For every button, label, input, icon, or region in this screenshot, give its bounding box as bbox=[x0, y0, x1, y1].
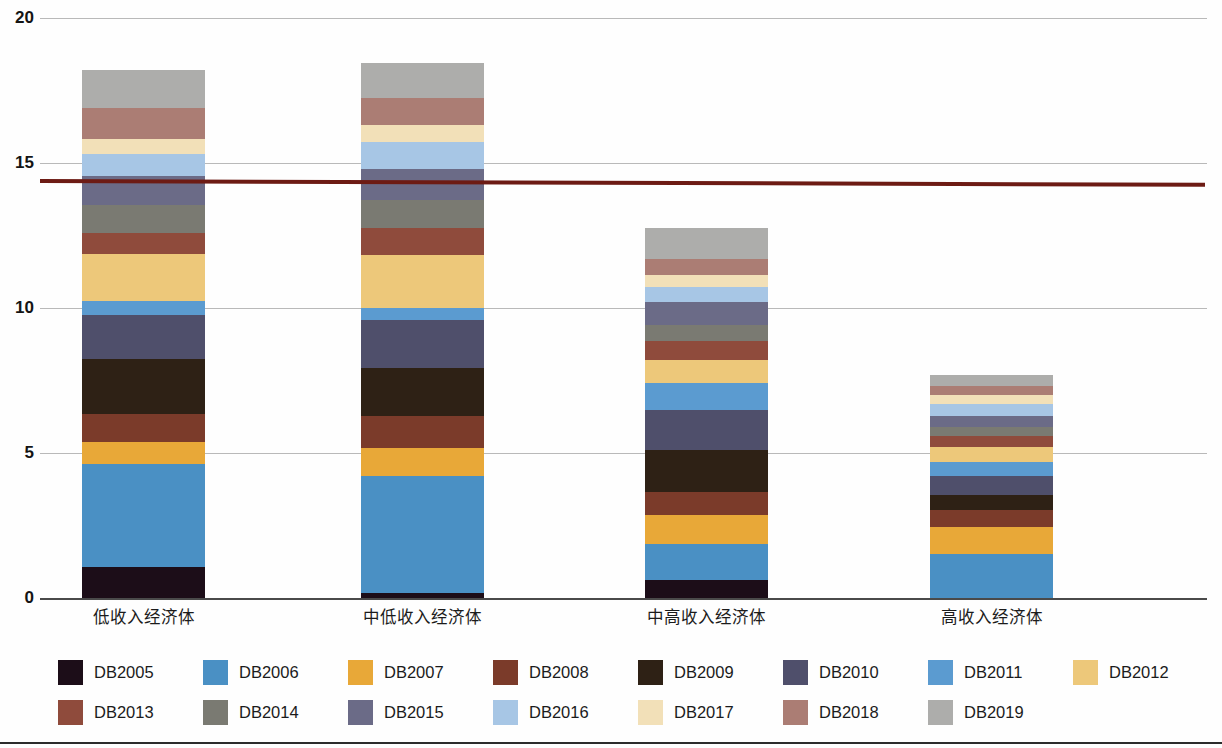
legend-item-db2011[interactable]: DB2011 bbox=[928, 660, 1073, 685]
bar-segment-db2011[interactable] bbox=[361, 308, 484, 320]
legend-row-2: DB2013DB2014DB2015DB2016DB2017DB2018DB20… bbox=[58, 692, 1218, 732]
bar-segment-db2016[interactable] bbox=[930, 404, 1053, 416]
bar-segment-db2013[interactable] bbox=[361, 228, 484, 255]
bar-segment-db2016[interactable] bbox=[361, 142, 484, 169]
bar-segment-db2019[interactable] bbox=[82, 70, 205, 108]
bar-segment-db2009[interactable] bbox=[361, 368, 484, 416]
legend-label: DB2012 bbox=[1109, 663, 1169, 682]
legend-item-db2017[interactable]: DB2017 bbox=[638, 700, 783, 725]
bar-segment-db2006[interactable] bbox=[930, 554, 1053, 598]
bar-segment-db2014[interactable] bbox=[361, 200, 484, 228]
legend-item-db2012[interactable]: DB2012 bbox=[1073, 660, 1218, 685]
bar-segment-db2017[interactable] bbox=[645, 275, 768, 287]
bar-segment-db2010[interactable] bbox=[930, 476, 1053, 495]
bar-segment-db2012[interactable] bbox=[361, 255, 484, 308]
bar-segment-db2006[interactable] bbox=[645, 544, 768, 580]
legend-label: DB2011 bbox=[964, 663, 1022, 682]
chart-legend: DB2005DB2006DB2007DB2008DB2009DB2010DB20… bbox=[0, 648, 1222, 736]
legend-item-db2007[interactable]: DB2007 bbox=[348, 660, 493, 685]
bar-segment-db2007[interactable] bbox=[930, 527, 1053, 554]
legend-item-db2005[interactable]: DB2005 bbox=[58, 660, 203, 685]
bar-segment-db2013[interactable] bbox=[930, 436, 1053, 447]
bar-segment-db2012[interactable] bbox=[930, 447, 1053, 462]
legend-label: DB2005 bbox=[94, 663, 154, 682]
bar-segment-db2011[interactable] bbox=[82, 301, 205, 315]
bar-segment-db2006[interactable] bbox=[82, 464, 205, 567]
y-tick-label-10: 10 bbox=[2, 299, 34, 316]
bar-segment-db2015[interactable] bbox=[930, 416, 1053, 427]
bar-segment-db2007[interactable] bbox=[82, 442, 205, 464]
bar-segment-db2009[interactable] bbox=[82, 359, 205, 414]
bar-segment-db2007[interactable] bbox=[645, 515, 768, 544]
bar-segment-db2005[interactable] bbox=[361, 593, 484, 598]
bar-segment-db2019[interactable] bbox=[361, 63, 484, 98]
bar-segment-db2010[interactable] bbox=[645, 410, 768, 450]
bar-2[interactable] bbox=[361, 63, 484, 598]
bar-segment-db2008[interactable] bbox=[930, 510, 1053, 527]
bar-segment-db2009[interactable] bbox=[930, 495, 1053, 510]
legend-item-db2015[interactable]: DB2015 bbox=[348, 700, 493, 725]
bar-segment-db2012[interactable] bbox=[645, 360, 768, 383]
bar-segment-db2019[interactable] bbox=[645, 228, 768, 259]
bar-segment-db2006[interactable] bbox=[361, 476, 484, 593]
legend-label: DB2006 bbox=[239, 663, 299, 682]
legend-item-db2010[interactable]: DB2010 bbox=[783, 660, 928, 685]
bar-segment-db2017[interactable] bbox=[930, 395, 1053, 404]
bar-segment-db2017[interactable] bbox=[361, 125, 484, 142]
bar-segment-db2018[interactable] bbox=[645, 259, 768, 275]
bar-3[interactable] bbox=[645, 228, 768, 598]
bar-segment-db2017[interactable] bbox=[82, 139, 205, 154]
legend-item-db2006[interactable]: DB2006 bbox=[203, 660, 348, 685]
bar-segment-db2009[interactable] bbox=[645, 450, 768, 492]
x-tick-label-2: 中低收入经济体 bbox=[316, 604, 529, 628]
bar-segment-db2013[interactable] bbox=[82, 233, 205, 254]
bar-segment-db2016[interactable] bbox=[82, 154, 205, 176]
legend-label: DB2013 bbox=[94, 703, 154, 722]
bar-1[interactable] bbox=[82, 70, 205, 598]
bar-segment-db2011[interactable] bbox=[645, 383, 768, 410]
bar-segment-db2008[interactable] bbox=[361, 416, 484, 448]
bar-segment-db2011[interactable] bbox=[930, 462, 1053, 476]
legend-item-db2019[interactable]: DB2019 bbox=[928, 700, 1073, 725]
bar-segment-db2015[interactable] bbox=[645, 302, 768, 325]
legend-label: DB2017 bbox=[674, 703, 734, 722]
legend-item-db2009[interactable]: DB2009 bbox=[638, 660, 783, 685]
bar-segment-db2016[interactable] bbox=[645, 287, 768, 302]
bar-segment-db2005[interactable] bbox=[82, 567, 205, 598]
legend-item-db2016[interactable]: DB2016 bbox=[493, 700, 638, 725]
bar-segment-db2008[interactable] bbox=[645, 492, 768, 515]
bar-segment-db2018[interactable] bbox=[930, 386, 1053, 395]
bar-4[interactable] bbox=[930, 375, 1053, 598]
bar-segment-db2005[interactable] bbox=[645, 580, 768, 598]
bar-segment-db2010[interactable] bbox=[82, 315, 205, 359]
bottom-divider-rule bbox=[0, 742, 1222, 744]
legend-label: DB2014 bbox=[239, 703, 299, 722]
bar-segment-db2019[interactable] bbox=[930, 375, 1053, 386]
bar-segment-db2013[interactable] bbox=[645, 341, 768, 360]
legend-label: DB2019 bbox=[964, 703, 1024, 722]
bar-segment-db2014[interactable] bbox=[82, 205, 205, 233]
bar-segment-db2015[interactable] bbox=[361, 169, 484, 200]
legend-swatch-db2019 bbox=[928, 700, 953, 725]
legend-swatch-db2006 bbox=[203, 660, 228, 685]
bar-segment-db2018[interactable] bbox=[82, 108, 205, 139]
bar-segment-db2014[interactable] bbox=[645, 325, 768, 341]
bar-segment-db2007[interactable] bbox=[361, 448, 484, 476]
legend-swatch-db2016 bbox=[493, 700, 518, 725]
bar-segment-db2008[interactable] bbox=[82, 414, 205, 442]
legend-label: DB2016 bbox=[529, 703, 589, 722]
legend-item-db2018[interactable]: DB2018 bbox=[783, 700, 928, 725]
legend-item-db2008[interactable]: DB2008 bbox=[493, 660, 638, 685]
legend-item-db2014[interactable]: DB2014 bbox=[203, 700, 348, 725]
legend-row-1: DB2005DB2006DB2007DB2008DB2009DB2010DB20… bbox=[58, 652, 1218, 692]
legend-label: DB2018 bbox=[819, 703, 879, 722]
bar-segment-db2012[interactable] bbox=[82, 254, 205, 301]
legend-item-db2013[interactable]: DB2013 bbox=[58, 700, 203, 725]
bar-segment-db2014[interactable] bbox=[930, 427, 1053, 436]
bar-segment-db2010[interactable] bbox=[361, 320, 484, 368]
legend-swatch-db2018 bbox=[783, 700, 808, 725]
bar-segment-db2018[interactable] bbox=[361, 98, 484, 125]
legend-label: DB2010 bbox=[819, 663, 879, 682]
y-tick-label-15: 15 bbox=[2, 154, 34, 171]
x-tick-label-3: 中高收入经济体 bbox=[600, 604, 813, 628]
